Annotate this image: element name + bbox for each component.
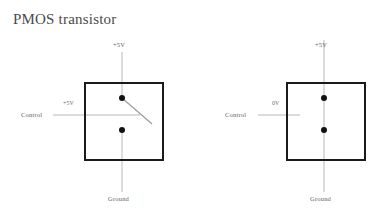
transistor-body-left — [85, 83, 163, 160]
control-value-right: 0V — [272, 100, 280, 107]
ground-label-left: Ground — [108, 195, 129, 203]
supply-label-right: +5V — [315, 41, 327, 49]
drain-node-right — [321, 127, 327, 133]
diagram-pmos-control-high — [53, 52, 163, 192]
source-node-left — [119, 95, 125, 101]
control-label-left: Control — [21, 111, 42, 119]
supply-label-left: +5V — [113, 41, 125, 49]
slide-canvas: PMOS transistor — [0, 0, 384, 219]
diagram-pmos-control-low — [258, 40, 365, 192]
transistor-body-right — [287, 83, 365, 160]
ground-label-right: Ground — [310, 195, 331, 203]
transistor-diagrams — [0, 0, 384, 219]
control-value-left: +5V — [63, 100, 74, 107]
drain-node-left — [119, 127, 125, 133]
control-label-right: Control — [225, 111, 246, 119]
switch-arm-open-left — [122, 98, 152, 124]
source-node-right — [321, 95, 327, 101]
